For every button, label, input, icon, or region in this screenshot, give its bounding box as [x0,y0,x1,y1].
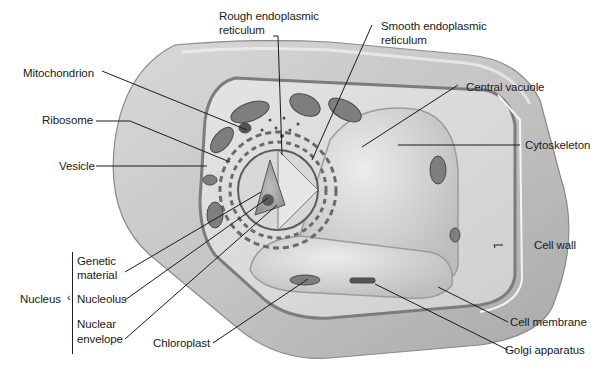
label-smooth-er-line2: reticulum [381,34,427,47]
label-ribosome: Ribosome [42,114,93,127]
label-cell-membrane: Cell membrane [510,316,587,329]
label-cytoskeleton: Cytoskeleton [525,139,590,152]
nucleus-brace [72,252,73,354]
label-vesicle: Vesicle [59,160,95,173]
brace-point-icon: ‹ [67,291,71,304]
label-cell-wall: Cell wall [534,239,576,252]
label-nucleus: Nucleus [20,293,61,306]
label-nuclear-envelope-line2: envelope [77,333,123,346]
label-nuclear-envelope-line1: Nuclear [77,318,116,331]
label-mitochondrion: Mitochondrion [23,67,94,80]
label-golgi-apparatus: Golgi apparatus [505,344,585,357]
label-genetic-material-line1: Genetic [77,255,116,268]
label-smooth-er-line1: Smooth endoplasmic [381,20,487,33]
label-rough-er-line1: Rough endoplasmic [219,10,319,23]
label-rough-er-line2: reticulum [219,24,265,37]
label-chloroplast: Chloroplast [153,337,210,350]
plant-cell-diagram: Rough endoplasmic reticulum Smooth endop… [0,0,611,381]
label-nucleolus: Nucleolus [77,293,127,306]
label-central-vacuole: Central vacuole [466,81,544,94]
label-genetic-material-line2: material [77,269,117,282]
